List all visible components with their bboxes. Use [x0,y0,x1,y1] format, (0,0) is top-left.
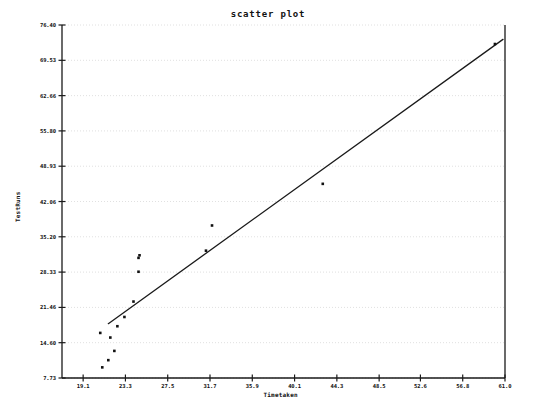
scatter-point [116,325,119,328]
x-tick-label: 23.3 [109,383,141,389]
y-tick-label: 7.73 [18,375,56,381]
scatter-point [132,300,135,303]
y-tick-label: 21.46 [18,304,56,310]
gridlines [62,25,505,378]
x-axis-label: Timetaken [264,391,298,398]
x-tick-label: 40.1 [279,383,311,389]
y-tick-label: 35.20 [18,234,56,240]
scatter-point [494,43,497,46]
chart-figure: scatter plot TestRuns Timetaken 76.4069.… [0,0,536,403]
scatter-point [211,224,214,227]
x-tick-label: 27.5 [152,383,184,389]
scatter-point [137,270,140,273]
y-tick-label: 76.40 [18,22,56,28]
scatter-point [113,350,116,353]
scatter-point [137,257,140,260]
trend-line [108,39,503,323]
tick-marks [59,25,506,382]
y-axis-label: TestRuns [14,191,21,222]
plot-canvas [0,0,536,403]
y-tick-label: 48.93 [18,163,56,169]
y-tick-label: 28.33 [18,269,56,275]
y-tick-label: 62.66 [18,93,56,99]
x-tick-label: 19.1 [67,383,99,389]
x-tick-label: 56.8 [447,383,479,389]
x-tick-label: 35.9 [236,383,268,389]
scatter-point [123,316,126,319]
x-tick-label: 48.5 [363,383,395,389]
scatter-point [101,366,104,369]
scatter-point [138,254,141,257]
scatter-point [321,183,324,186]
x-tick-label: 31.7 [194,383,226,389]
x-tick-label: 61.0 [489,383,521,389]
y-tick-label: 42.06 [18,199,56,205]
scatter-point [205,249,208,252]
scatter-point [99,332,102,335]
y-tick-label: 14.60 [18,340,56,346]
x-tick-label: 44.3 [321,383,353,389]
y-tick-label: 69.53 [18,57,56,63]
x-tick-label: 52.6 [404,383,436,389]
scatter-markers [99,43,496,369]
scatter-point [107,359,110,362]
scatter-point [109,336,112,339]
chart-title: scatter plot [0,9,536,19]
y-tick-label: 55.80 [18,128,56,134]
